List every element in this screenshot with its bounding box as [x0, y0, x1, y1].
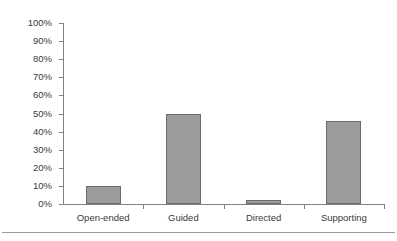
x-axis-separator-tick [224, 204, 225, 209]
y-tick-100%: 100% [59, 23, 63, 24]
y-tick-label: 10% [33, 181, 52, 191]
y-tick-label: 40% [33, 127, 52, 137]
category-label-supporting: Supporting [321, 213, 367, 223]
y-tick-10%: 10% [59, 186, 63, 187]
bar-open-ended [86, 186, 121, 204]
y-tick-30%: 30% [59, 150, 63, 151]
y-tick-70%: 70% [59, 77, 63, 78]
bar-directed [246, 200, 281, 204]
bar-chart-figure: 0%10%20%30%40%50%60%70%80%90%100% Open-e… [0, 0, 397, 241]
bar-guided [166, 114, 201, 205]
y-tick-label: 30% [33, 145, 52, 155]
y-tick-80%: 80% [59, 59, 63, 60]
bar-supporting [326, 121, 361, 204]
bottom-divider-rule [2, 232, 395, 233]
plot-area: 0%10%20%30%40%50%60%70%80%90%100% Open-e… [63, 23, 384, 204]
y-tick-50%: 50% [59, 114, 63, 115]
y-axis-line [63, 23, 64, 205]
x-axis-end-tick [384, 204, 385, 209]
y-tick-label: 20% [33, 163, 52, 173]
y-tick-0%: 0% [59, 204, 63, 205]
y-tick-label: 80% [33, 54, 52, 64]
y-tick-label: 90% [33, 36, 52, 46]
y-tick-label: 0% [38, 199, 52, 209]
y-tick-60%: 60% [59, 95, 63, 96]
x-axis-separator-tick [304, 204, 305, 209]
y-tick-label: 100% [28, 18, 52, 28]
y-tick-90%: 90% [59, 41, 63, 42]
y-tick-label: 70% [33, 73, 52, 83]
category-label-open-ended: Open-ended [77, 213, 130, 223]
y-tick-40%: 40% [59, 132, 63, 133]
y-tick-label: 50% [33, 109, 52, 119]
y-tick-label: 60% [33, 91, 52, 101]
category-label-directed: Directed [246, 213, 281, 223]
y-tick-20%: 20% [59, 168, 63, 169]
category-label-guided: Guided [168, 213, 199, 223]
x-axis-separator-tick [143, 204, 144, 209]
